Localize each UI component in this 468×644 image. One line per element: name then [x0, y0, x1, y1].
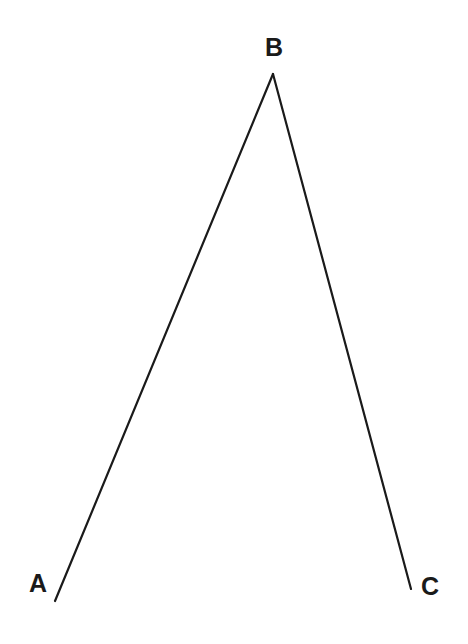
label-b: B	[265, 33, 283, 61]
angle-diagram: A B C	[0, 0, 468, 644]
label-c: C	[421, 572, 439, 600]
label-a: A	[29, 569, 47, 597]
segment-ba	[55, 74, 273, 601]
segment-bc	[273, 74, 411, 589]
